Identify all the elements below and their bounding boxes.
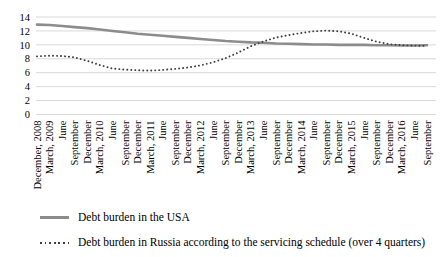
series-line-russia xyxy=(37,31,427,71)
y-tick-label-12: 12 xyxy=(20,26,31,37)
x-tick-label-16: December xyxy=(233,120,244,164)
y-tick-label-0: 0 xyxy=(25,109,30,120)
x-tick-label-15: September xyxy=(220,120,231,165)
debt-burden-chart: 02468101214December, 2008March, 2009June… xyxy=(0,0,442,255)
x-tick-label-27: September xyxy=(371,120,382,165)
russia-dotted-line-swatch xyxy=(40,242,69,244)
y-tick-label-6: 6 xyxy=(25,67,30,78)
x-tick-label-2: June xyxy=(57,120,68,140)
x-tick-label-11: September xyxy=(170,120,181,165)
y-tick-label-8: 8 xyxy=(25,53,30,64)
usa-solid-line-swatch xyxy=(40,216,69,219)
x-tick-label-26: June xyxy=(359,120,370,140)
x-tick-label-3: September xyxy=(69,120,80,165)
x-tick-label-6: June xyxy=(107,120,118,140)
legend-label-usa: Debt burden in the USA xyxy=(78,212,190,224)
x-tick-label-20: December xyxy=(283,120,294,164)
x-tick-label-23: September xyxy=(321,120,332,165)
x-tick-label-10: June xyxy=(157,120,168,140)
x-tick-label-12: December xyxy=(182,120,193,164)
chart-legend: Debt burden in the USA Debt burden in Ru… xyxy=(40,205,442,255)
x-tick-label-28: December xyxy=(384,120,395,164)
legend-item-usa: Debt burden in the USA xyxy=(40,205,442,230)
x-tick-label-25: March, 2015 xyxy=(346,121,357,175)
x-tick-label-17: March, 2013 xyxy=(245,121,256,175)
x-tick-label-5: March, 2010 xyxy=(94,121,105,175)
y-tick-label-10: 10 xyxy=(20,40,31,51)
legend-item-russia: Debt burden in Russia according to the s… xyxy=(40,230,442,255)
x-tick-label-14: June xyxy=(208,120,219,140)
x-tick-label-0: December, 2008 xyxy=(32,121,43,190)
y-tick-label-14: 14 xyxy=(20,12,31,23)
x-tick-label-1: March, 2009 xyxy=(44,121,55,175)
y-tick-label-2: 2 xyxy=(25,95,30,106)
x-tick-label-22: June xyxy=(308,120,319,140)
x-tick-label-4: December xyxy=(82,120,93,164)
x-tick-label-8: December xyxy=(132,120,143,164)
x-tick-label-7: September xyxy=(120,120,131,165)
legend-label-russia: Debt burden in Russia according to the s… xyxy=(78,237,425,249)
y-tick-label-4: 4 xyxy=(25,81,31,92)
chart-plot-area: 02468101214December, 2008March, 2009June… xyxy=(0,0,442,202)
x-tick-label-21: March, 2014 xyxy=(296,120,307,174)
x-tick-label-18: June xyxy=(258,120,269,140)
x-tick-label-13: March, 2012 xyxy=(195,121,206,175)
x-tick-label-29: March, 2016 xyxy=(396,121,407,175)
x-tick-label-24: December xyxy=(333,120,344,164)
series-line-usa xyxy=(37,25,427,46)
x-tick-label-31: September xyxy=(422,120,433,165)
x-tick-label-19: September xyxy=(271,120,282,165)
x-tick-label-30: June xyxy=(409,120,420,140)
x-tick-label-9: March, 2011 xyxy=(145,121,156,174)
